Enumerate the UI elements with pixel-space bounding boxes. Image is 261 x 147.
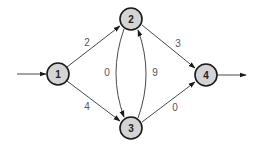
node-3-label: 3 <box>128 123 134 134</box>
node-1-label: 1 <box>55 69 61 80</box>
edge-2-to-4 <box>142 25 195 68</box>
node-2-label: 2 <box>128 14 134 25</box>
weight-label-3-4: 0 <box>172 102 178 113</box>
weight-label-3-2: 9 <box>152 67 158 78</box>
graph-diagram: 2 4 0 9 3 0 1 2 3 4 <box>0 0 261 147</box>
node-1: 1 <box>47 63 69 85</box>
edge-2-to-3 <box>116 29 124 117</box>
weight-label-1-3: 4 <box>84 101 90 112</box>
weight-label-1-2: 2 <box>84 37 90 48</box>
node-4: 4 <box>195 64 217 86</box>
edge-3-to-4 <box>142 82 195 122</box>
edge-1-to-2 <box>67 26 120 67</box>
edge-3-to-2 <box>138 30 146 118</box>
edge-1-to-3 <box>67 81 120 121</box>
node-4-label: 4 <box>203 70 209 81</box>
node-3: 3 <box>120 117 142 139</box>
weight-label-2-3: 0 <box>104 67 110 78</box>
node-2: 2 <box>120 8 142 30</box>
weight-label-2-4: 3 <box>175 38 181 49</box>
